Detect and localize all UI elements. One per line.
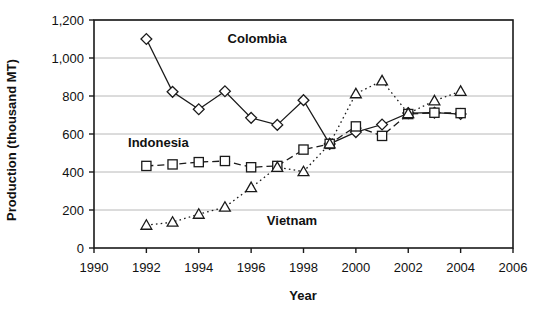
data-point-square xyxy=(377,131,386,140)
data-point-square xyxy=(299,145,308,154)
chart-figure: 02004006008001,0001,20019901992199419961… xyxy=(0,0,552,317)
gridlines xyxy=(94,20,513,210)
data-point-square xyxy=(220,156,229,165)
data-point-square xyxy=(194,158,203,167)
x-tick-label: 2006 xyxy=(499,260,528,275)
data-point-square xyxy=(456,109,465,118)
x-tick-label: 2000 xyxy=(341,260,370,275)
data-point-square xyxy=(430,108,439,117)
data-point-triangle xyxy=(429,95,440,104)
series-label-indonesia: Indonesia xyxy=(128,135,189,150)
data-point-square xyxy=(142,161,151,170)
data-point-square xyxy=(351,122,360,131)
data-point-triangle xyxy=(246,182,257,191)
x-tick-label: 1996 xyxy=(237,260,266,275)
data-point-triangle xyxy=(350,88,361,97)
data-point-triangle xyxy=(141,220,152,229)
y-axis-title: Production (thousand MT) xyxy=(4,59,19,221)
x-tick-label: 2004 xyxy=(446,260,475,275)
line-chart: 02004006008001,0001,20019901992199419961… xyxy=(0,0,552,317)
y-tick-label: 600 xyxy=(62,127,84,142)
y-tick-label: 200 xyxy=(62,203,84,218)
series-label-colombia: Colombia xyxy=(228,31,288,46)
tick-labels: 02004006008001,0001,20019901992199419961… xyxy=(51,13,527,275)
x-tick-label: 2002 xyxy=(394,260,423,275)
data-point-square xyxy=(247,163,256,172)
data-point-triangle xyxy=(220,202,231,211)
data-point-diamond xyxy=(141,34,152,45)
data-point-triangle xyxy=(455,86,466,95)
x-tick-label: 1992 xyxy=(132,260,161,275)
x-tick-label: 1994 xyxy=(184,260,213,275)
series-line xyxy=(146,39,460,144)
x-axis-title: Year xyxy=(289,288,316,303)
series-colombia xyxy=(141,34,466,150)
y-tick-label: 800 xyxy=(62,89,84,104)
series-indonesia xyxy=(142,108,465,172)
y-tick-label: 1,200 xyxy=(51,13,84,28)
data-point-triangle xyxy=(377,75,388,84)
y-tick-label: 400 xyxy=(62,165,84,180)
data-point-square xyxy=(168,160,177,169)
x-tick-label: 1990 xyxy=(80,260,109,275)
data-point-diamond xyxy=(377,119,388,130)
data-point-diamond xyxy=(193,104,204,115)
y-tick-label: 0 xyxy=(77,241,84,256)
y-tick-label: 1,000 xyxy=(51,51,84,66)
data-series-group xyxy=(141,34,466,230)
series-label-vietnam: Vietnam xyxy=(267,213,317,228)
x-tick-label: 1998 xyxy=(289,260,318,275)
